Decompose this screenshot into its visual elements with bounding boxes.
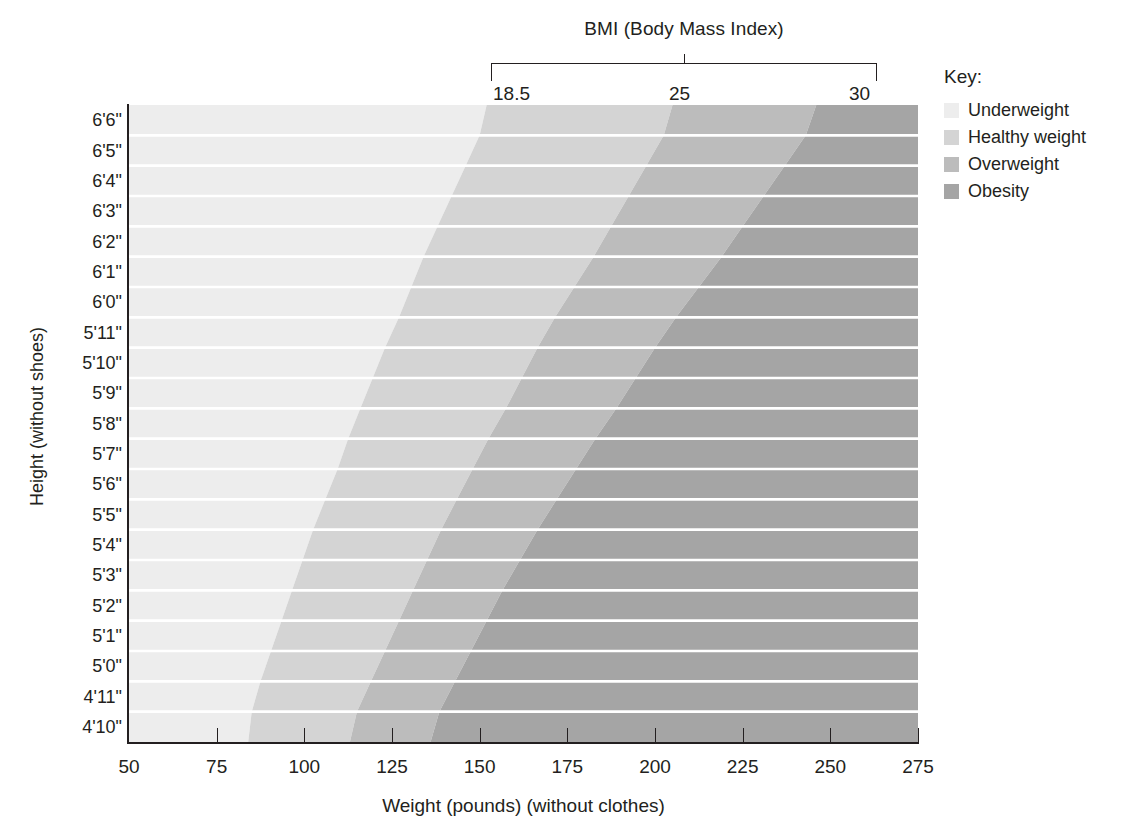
x-axis-tick-label: 250 [814, 756, 846, 778]
bmi-bracket-title: BMI (Body Mass Index) [491, 18, 877, 40]
legend-item: Overweight [944, 151, 1124, 178]
bmi-bracket [491, 63, 877, 81]
legend-swatch [944, 184, 959, 199]
legend-item-label: Healthy weight [968, 127, 1086, 148]
x-axis-ticks [129, 742, 918, 754]
legend-item: Underweight [944, 97, 1124, 124]
x-axis-tick [743, 728, 744, 742]
y-axis-tick-label: 6'0" [50, 293, 122, 311]
x-axis-tick-label: 225 [727, 756, 759, 778]
legend-rows: UnderweightHealthy weightOverweightObesi… [944, 97, 1124, 205]
y-axis-tick-label: 5'9" [50, 384, 122, 402]
x-axis-tick [567, 728, 568, 742]
y-axis-tick-label: 5'2" [50, 597, 122, 615]
y-axis-tick-label: 6'1" [50, 263, 122, 281]
x-axis-tick-label: 275 [902, 756, 934, 778]
x-axis-tick [830, 728, 831, 742]
legend: Key: UnderweightHealthy weightOverweight… [944, 66, 1124, 205]
x-axis-tick-label: 75 [206, 756, 227, 778]
legend-swatch [944, 157, 959, 172]
x-axis-tick-label: 175 [551, 756, 583, 778]
legend-item: Obesity [944, 178, 1124, 205]
x-axis-tick [918, 728, 919, 742]
y-axis-tick-label: 5'1" [50, 627, 122, 645]
bmi-tick-label-25: 25 [669, 83, 690, 105]
y-axis-labels: 6'6"6'5"6'4"6'3"6'2"6'1"6'0"5'11"5'10"5'… [46, 105, 122, 742]
y-axis-tick-label: 5'6" [50, 475, 122, 493]
bmi-bracket-center-tick [684, 54, 685, 64]
legend-swatch [944, 103, 959, 118]
bmi-tick-label-30: 30 [849, 83, 870, 105]
x-axis-tick-label: 125 [376, 756, 408, 778]
legend-item-label: Underweight [968, 100, 1069, 121]
x-axis-tick [217, 728, 218, 742]
legend-item-label: Obesity [968, 181, 1029, 202]
x-axis-tick-label: 150 [464, 756, 496, 778]
y-axis-tick-label: 5'8" [50, 415, 122, 433]
x-axis-tick [304, 728, 305, 742]
y-axis-tick-label: 6'4" [50, 172, 122, 190]
x-axis-tick-label: 200 [639, 756, 671, 778]
bmi-tick-label-18-5: 18.5 [493, 83, 530, 105]
x-axis-tick [655, 728, 656, 742]
legend-item-label: Overweight [968, 154, 1059, 175]
y-axis-tick-label: 6'2" [50, 233, 122, 251]
y-axis-tick-label: 6'3" [50, 202, 122, 220]
y-axis-tick-label: 5'5" [50, 506, 122, 524]
y-axis-tick-label: 4'10" [50, 718, 122, 736]
y-axis-tick-label: 5'7" [50, 445, 122, 463]
x-axis-tick [480, 728, 481, 742]
y-axis-tick-label: 4'11" [50, 688, 122, 706]
y-axis-tick-label: 6'6" [50, 111, 122, 129]
y-axis-tick-label: 5'11" [50, 324, 122, 342]
y-axis-tick-label: 5'10" [50, 354, 122, 372]
plot-area [129, 105, 918, 742]
bmi-chart: BMI (Body Mass Index) 18.5 25 30 6'6"6'5… [0, 0, 1129, 840]
y-axis-line [127, 104, 129, 743]
x-axis-title: Weight (pounds) (without clothes) [129, 795, 918, 817]
x-axis-tick-label: 100 [288, 756, 320, 778]
y-axis-tick-label: 6'5" [50, 142, 122, 160]
y-axis-tick-label: 5'4" [50, 536, 122, 554]
y-axis-tick-label: 5'0" [50, 657, 122, 675]
x-axis-tick-label: 50 [118, 756, 139, 778]
legend-swatch [944, 130, 959, 145]
legend-item: Healthy weight [944, 124, 1124, 151]
bmi-band-svg [129, 105, 918, 742]
x-axis-tick [392, 728, 393, 742]
y-axis-title: Height (without shoes) [27, 252, 48, 582]
y-axis-tick-label: 5'3" [50, 566, 122, 584]
legend-title: Key: [944, 66, 1124, 88]
